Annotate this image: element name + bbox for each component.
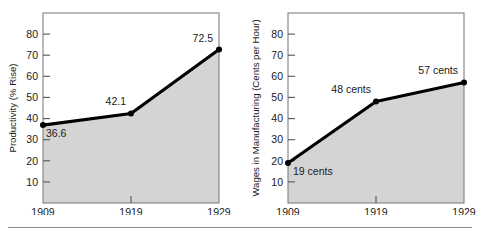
y-tick-label-10: 10 <box>271 176 283 188</box>
x-tick-label-1929: 1929 <box>452 206 476 215</box>
y-tick-label-20: 20 <box>271 155 283 167</box>
y-tick-label-80: 80 <box>26 28 38 40</box>
data-point-1929 <box>216 46 222 52</box>
chart-panel-productivity: 10 20 30 40 50 60 70 80 Productivity (% … <box>0 0 240 215</box>
data-point-1919 <box>373 99 379 105</box>
data-label-1929: 72.5 <box>193 32 214 44</box>
y-axis-title: Productivity (% Rise) <box>7 63 18 152</box>
data-point-1909 <box>285 160 291 166</box>
data-label-1909: 19 cents <box>293 165 333 177</box>
y-tick-label-70: 70 <box>271 49 283 61</box>
y-tick-label-20: 20 <box>26 155 38 167</box>
x-tick-label-1909: 1909 <box>276 206 300 215</box>
y-tick-label-40: 40 <box>26 112 38 124</box>
y-tick-label-50: 50 <box>26 91 38 103</box>
y-tick-label-30: 30 <box>26 133 38 145</box>
x-tick-label-1909: 1909 <box>31 206 55 215</box>
x-tick-label-1929: 1929 <box>207 206 231 215</box>
data-label-1929: 57 cents <box>418 64 458 76</box>
area-fill-productivity <box>43 49 219 203</box>
data-label-1919: 42.1 <box>106 95 127 107</box>
y-tick-label-60: 60 <box>271 70 283 82</box>
y-tick-label-10: 10 <box>26 176 38 188</box>
data-label-1909: 36.6 <box>46 127 67 139</box>
two-panel-figure: 10 20 30 40 50 60 70 80 Productivity (% … <box>0 0 480 235</box>
y-tick-label-50: 50 <box>271 91 283 103</box>
x-tick-label-1919: 1919 <box>119 206 143 215</box>
chart-panel-wages: 10 20 30 40 50 60 70 80 Wages in Manufac… <box>240 0 480 215</box>
y-tick-label-30: 30 <box>271 133 283 145</box>
y-axis-title: Wages in Manufacturing (Cents per Hour) <box>250 19 261 196</box>
y-tick-label-60: 60 <box>26 70 38 82</box>
data-label-1919: 48 cents <box>331 83 371 95</box>
y-tick-label-40: 40 <box>271 112 283 124</box>
data-point-1919 <box>128 111 134 117</box>
x-tick-label-1919: 1919 <box>364 206 388 215</box>
data-point-1929 <box>461 80 467 86</box>
bottom-divider <box>8 227 472 228</box>
y-tick-label-80: 80 <box>271 28 283 40</box>
y-tick-label-70: 70 <box>26 49 38 61</box>
